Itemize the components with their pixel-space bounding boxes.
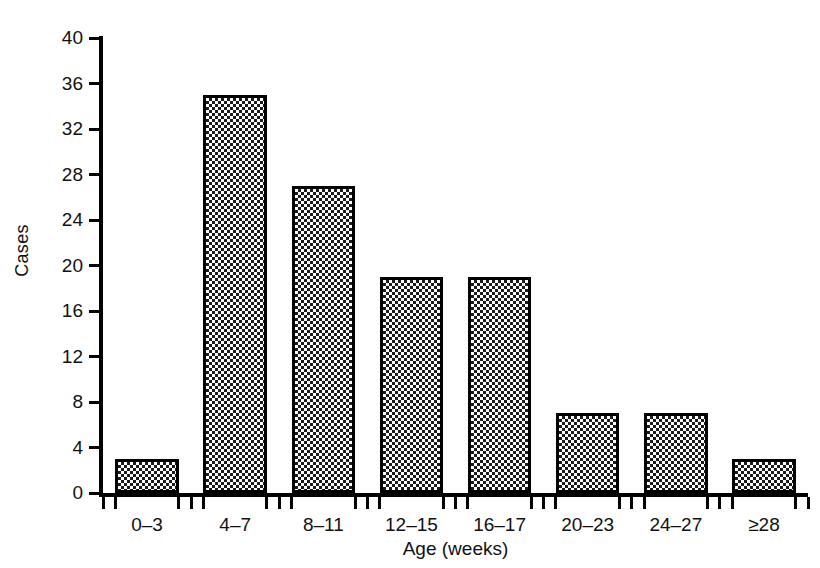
y-axis-tick: [89, 401, 99, 404]
x-axis-tick: [466, 497, 469, 509]
bar: [468, 277, 531, 493]
y-axis-tick: [89, 173, 99, 176]
x-axis-tick-label: 16–17: [473, 514, 526, 536]
y-axis-tick-label: 20: [62, 255, 83, 277]
y-axis-line: [99, 36, 103, 495]
y-axis-tick: [89, 355, 99, 358]
x-axis-tick: [630, 497, 633, 509]
y-axis-tick: [89, 446, 99, 449]
x-axis-tick: [794, 497, 797, 509]
bar: [203, 95, 266, 493]
y-axis-tick-label: 40: [62, 27, 83, 49]
bar: [115, 459, 178, 493]
x-axis-tick: [290, 497, 293, 509]
bar: [292, 186, 355, 493]
x-axis-tick: [807, 497, 810, 509]
y-axis-tick-label: 8: [72, 391, 83, 413]
y-axis-tick-label: 32: [62, 118, 83, 140]
x-axis-tick: [102, 497, 105, 509]
x-axis-tick: [706, 497, 709, 509]
y-axis-tick: [89, 37, 99, 40]
x-axis-tick: [114, 497, 117, 509]
x-axis-tick-label: 20–23: [561, 514, 614, 536]
bar: [380, 277, 443, 493]
bar-chart-figure: Cases 0481216202428323640 0–34–78–1112–1…: [0, 0, 820, 568]
y-axis-tick-label: 36: [62, 73, 83, 95]
x-axis-tick-label: 8–11: [303, 514, 344, 536]
y-axis-tick: [89, 310, 99, 313]
y-axis-tick-label: 0: [72, 482, 83, 504]
x-axis-tick-label: 0–3: [131, 514, 163, 536]
x-axis-tick: [265, 497, 268, 509]
x-axis-tick-label: ≥28: [748, 514, 780, 536]
x-axis-tick: [354, 497, 357, 509]
y-axis-tick: [89, 128, 99, 131]
x-axis-tick: [190, 497, 193, 509]
x-axis-tick: [618, 497, 621, 509]
x-axis-tick: [278, 497, 281, 509]
y-axis-tick-label: 12: [62, 346, 83, 368]
bar: [644, 413, 707, 493]
y-axis-tick-label: 16: [62, 300, 83, 322]
y-axis-tick-label: 28: [62, 164, 83, 186]
x-axis-tick: [718, 497, 721, 509]
x-axis-title: Age (weeks): [103, 538, 808, 560]
x-axis-tick: [530, 497, 533, 509]
x-axis-tick: [177, 497, 180, 509]
x-axis-tick-label: 4–7: [219, 514, 251, 536]
bar: [732, 459, 795, 493]
y-axis-title-text: Cases: [12, 224, 33, 277]
y-axis-tick: [89, 492, 99, 495]
x-axis-tick: [454, 497, 457, 509]
y-axis-tick: [89, 264, 99, 267]
y-axis-tick-label: 24: [62, 209, 83, 231]
x-axis-tick-label: 24–27: [649, 514, 702, 536]
bar: [556, 413, 619, 493]
x-axis-tick: [731, 497, 734, 509]
y-axis-tick: [89, 82, 99, 85]
x-axis-tick: [202, 497, 205, 509]
plot-area: 0481216202428323640 0–34–78–1112–1516–17…: [103, 38, 808, 493]
x-axis-tick: [542, 497, 545, 509]
x-axis-tick: [442, 497, 445, 509]
x-axis-tick: [554, 497, 557, 509]
x-axis-title-text: Age (weeks): [403, 538, 509, 559]
x-axis-tick: [366, 497, 369, 509]
y-axis-title: Cases: [2, 0, 42, 500]
x-axis-tick-label: 12–15: [385, 514, 438, 536]
x-axis-tick: [378, 497, 381, 509]
x-axis-tick: [643, 497, 646, 509]
y-axis-tick-label: 4: [72, 437, 83, 459]
y-axis-tick: [89, 219, 99, 222]
